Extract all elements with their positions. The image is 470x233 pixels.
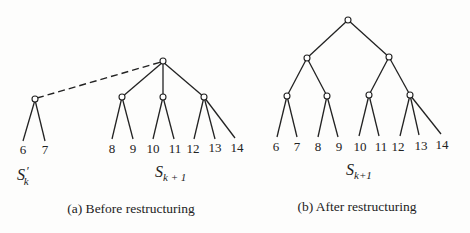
edge: [204, 97, 235, 138]
tree-root-node: [160, 58, 166, 64]
edge: [163, 62, 204, 97]
edge: [153, 97, 163, 139]
edge: [23, 100, 35, 141]
leaf-label: 9: [336, 139, 343, 154]
tree-root-node: [345, 17, 351, 23]
tree-node: [386, 54, 392, 60]
caption-a: (a) Before restructuring: [67, 201, 195, 216]
tree-node: [407, 92, 413, 98]
leaf-label: 9: [130, 141, 137, 156]
edge: [389, 57, 410, 95]
edge: [277, 96, 287, 137]
edge: [163, 97, 174, 139]
tree-node: [324, 93, 330, 99]
edge: [359, 95, 369, 136]
edge: [369, 95, 379, 136]
tree-node: [201, 94, 207, 100]
leaf-label: 12: [392, 139, 405, 154]
edge: [287, 96, 297, 137]
edge: [307, 58, 327, 96]
edge: [369, 57, 389, 95]
edge: [318, 96, 327, 137]
diagram-svg: 6 7 8 9 10 11 12 13 14 S′k Sk + 1 (a) Be…: [0, 0, 470, 233]
leaf-label: 14: [231, 140, 245, 155]
leaf-label: 6: [20, 142, 27, 157]
set-label-sk-plus-1: Sk + 1: [155, 163, 186, 183]
leaf-label: 12: [187, 141, 200, 156]
panel-a-before: 6 7 8 9 10 11 12 13 14 S′k Sk + 1 (a) Be…: [17, 58, 244, 216]
tree-node: [366, 92, 372, 98]
tree-node: [284, 93, 290, 99]
caption-b: (b) After restructuring: [297, 199, 416, 214]
leaf-label: 8: [315, 139, 322, 154]
leaf-label: 13: [209, 140, 222, 155]
edge: [112, 97, 122, 139]
edge: [327, 96, 338, 137]
edge: [287, 58, 307, 96]
leaf-label: 11: [169, 141, 182, 156]
leaf-label: 13: [415, 138, 428, 153]
panel-b-after: 6 7 8 9 10 11 12 13 14 Sk+1 (b) After re…: [273, 17, 449, 214]
set-label-sk-plus-1: Sk+1: [346, 161, 372, 181]
leaf-label: 10: [147, 141, 160, 156]
leaf-label: 11: [375, 139, 388, 154]
edge: [400, 95, 410, 136]
leaf-label: 7: [294, 139, 301, 154]
edge: [307, 20, 348, 58]
set-label-sk-prime: S′k: [17, 164, 30, 187]
edge: [122, 62, 163, 97]
edge: [122, 97, 133, 139]
leaf-label: 14: [436, 137, 450, 152]
edge: [35, 100, 45, 141]
tree-node: [32, 96, 38, 102]
leaf-label: 7: [42, 142, 49, 157]
tree-node: [119, 94, 125, 100]
edge: [194, 97, 204, 139]
leaf-label: 10: [354, 139, 367, 154]
edge: [348, 20, 389, 57]
tree-node: [160, 94, 166, 100]
tree-node: [304, 55, 310, 61]
leaf-label: 6: [273, 139, 280, 154]
tree-restructuring-figure: 6 7 8 9 10 11 12 13 14 S′k Sk + 1 (a) Be…: [0, 0, 470, 233]
leaf-label: 8: [109, 141, 116, 156]
